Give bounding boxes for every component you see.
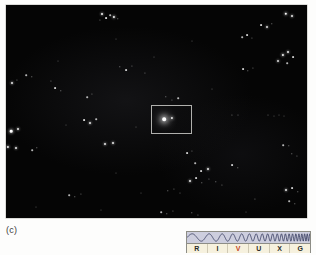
star-point [83, 119, 85, 121]
bright-source [162, 117, 166, 121]
star-point [10, 130, 13, 133]
star-point [160, 211, 162, 213]
star-point [131, 65, 132, 66]
star-point [36, 207, 37, 208]
star-point [105, 17, 107, 19]
star-point [31, 76, 32, 77]
spectrum-band-labels: RIVUXG [187, 244, 310, 253]
star-point [144, 72, 145, 73]
star-point [274, 116, 275, 117]
spectrum-wave-band [187, 232, 310, 244]
panel-label: (c) [6, 226, 17, 235]
star-point [282, 144, 284, 146]
star-point [119, 66, 120, 67]
star-point [237, 167, 238, 168]
star-point [7, 146, 9, 148]
star-point [215, 181, 216, 182]
star-point [172, 210, 173, 211]
star-point [291, 15, 293, 17]
star-point [15, 147, 17, 149]
star-point [208, 178, 209, 179]
star-point [58, 61, 59, 62]
star-point [277, 60, 279, 62]
star-point [294, 203, 295, 204]
star-point [113, 16, 115, 18]
star-point [231, 114, 232, 115]
star-point [125, 69, 127, 71]
star-point [288, 200, 290, 202]
star-point [154, 57, 155, 58]
star-point [165, 96, 166, 97]
star-point [186, 152, 188, 154]
star-point [86, 96, 88, 98]
star-point [297, 191, 298, 192]
star-point [54, 87, 56, 89]
star-point [285, 189, 287, 191]
star-point [171, 99, 172, 100]
star-point [191, 212, 192, 213]
figure-panel: (c) RIVUXG [0, 0, 316, 255]
sky-image [6, 5, 307, 218]
star-point [17, 128, 19, 130]
star-point [285, 13, 287, 15]
star-point [284, 116, 285, 117]
star-point [50, 80, 51, 81]
star-point [141, 193, 142, 194]
star-point [25, 74, 27, 76]
star-point [95, 118, 97, 120]
spectrum-band-gamma-ray: G [290, 244, 310, 253]
star-point [246, 34, 248, 36]
star-point [194, 162, 196, 164]
star-point [180, 193, 181, 194]
star-point [282, 54, 284, 56]
star-point [116, 173, 117, 174]
star-point [101, 210, 102, 211]
star-point [189, 180, 191, 182]
star-point [221, 184, 222, 185]
star-point [242, 68, 244, 70]
star-point [288, 145, 289, 146]
star-point [112, 142, 114, 144]
star-point [292, 56, 294, 58]
star-point [166, 213, 167, 214]
star-point [201, 182, 202, 183]
spectrum-band-radio: R [187, 244, 208, 253]
highlight-box [151, 105, 192, 134]
star-point [241, 36, 243, 38]
star-point [104, 143, 106, 145]
star-point [16, 79, 17, 80]
star-point [191, 150, 192, 151]
star-point [207, 168, 209, 170]
star-point [195, 177, 197, 179]
spectrum-legend: RIVUXG [186, 231, 311, 253]
star-point [279, 115, 280, 116]
star-point [287, 51, 289, 53]
star-point [117, 18, 118, 19]
star-point [268, 115, 269, 116]
star-point [109, 14, 111, 16]
star-point [177, 97, 179, 99]
star-point [167, 190, 168, 191]
star-point [80, 193, 81, 194]
spectrum-band-x-ray: X [270, 244, 291, 253]
star-point [271, 23, 272, 24]
star-point [200, 170, 202, 172]
star-point [68, 194, 70, 196]
star-point [266, 26, 268, 28]
star-point [238, 115, 239, 116]
star-point [136, 127, 137, 128]
star-point [296, 155, 297, 156]
star-point [246, 212, 247, 213]
star-point [251, 37, 252, 38]
spectrum-wave-icon [187, 232, 310, 243]
star-point [291, 187, 293, 189]
star-point [36, 147, 37, 148]
star-point [116, 39, 117, 40]
spectrum-band-ultraviolet: U [249, 244, 270, 253]
star-point [60, 90, 61, 91]
star-point [212, 89, 213, 90]
spectrum-band-infrared: I [208, 244, 229, 253]
star-point [99, 19, 100, 20]
star-point [252, 67, 253, 68]
star-point [31, 149, 33, 151]
